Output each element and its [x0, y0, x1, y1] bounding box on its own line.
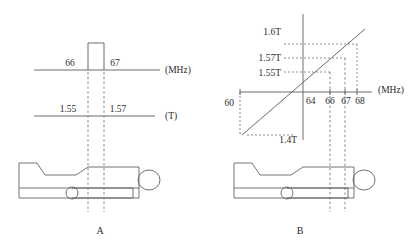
figure-svg: 66 67 (MHz) 1.55 1.57 (T) A — [0, 0, 419, 247]
panel-b-ytick-1p4T: 1.4T — [279, 135, 297, 145]
panel-b-patient-hand-circle — [281, 187, 293, 199]
panel-a-letter: A — [96, 225, 104, 236]
panel-a-freq-tick-66: 66 — [65, 58, 75, 68]
panel-b-letter: B — [297, 225, 304, 236]
panel-a-frequency-unit-label: (MHz) — [165, 65, 191, 76]
panel-b-patient-body — [234, 163, 354, 198]
panel-a-field-tick-155: 1.55 — [60, 104, 77, 114]
panel-b-patient-outline — [234, 163, 375, 199]
panel-b-xtick-label-67: 67 — [341, 96, 351, 106]
panel-a-patient-outline — [19, 163, 160, 199]
panel-a-patient-arm — [72, 188, 133, 198]
panel-b-xtick-label-68: 68 — [355, 96, 365, 106]
panel-b-gradient-line — [242, 29, 365, 135]
panel-b-ytick-1p57T: 1.57T — [259, 53, 282, 63]
panel-a-patient-hand-circle — [66, 187, 78, 199]
panel-a-freq-tick-67: 67 — [110, 58, 120, 68]
panel-b: 1.6T 1.57T 1.55T 1.4T 60 64 66 67 68 (MH… — [225, 14, 404, 236]
panel-b-frequency-unit-label: (MHz) — [378, 85, 404, 96]
panel-b-xtick-label-64: 64 — [306, 96, 316, 106]
panel-a: 66 67 (MHz) 1.55 1.57 (T) A — [19, 43, 191, 236]
panel-a-field-tick-157: 1.57 — [110, 104, 127, 114]
panel-b-ytick-1p6T: 1.6T — [263, 27, 281, 37]
rf-pulse-block — [88, 43, 104, 70]
panel-b-ytick-1p55T: 1.55T — [259, 68, 282, 78]
panel-a-patient-body — [19, 163, 139, 198]
panel-b-patient-head-circle — [353, 170, 375, 190]
panel-a-field-unit-label: (T) — [165, 111, 177, 122]
panel-b-xtick-label-60: 60 — [225, 98, 235, 108]
panel-b-xtick-label-66: 66 — [325, 96, 335, 106]
figure-root: 66 67 (MHz) 1.55 1.57 (T) A — [0, 0, 419, 247]
panel-a-patient-head-circle — [138, 170, 160, 190]
panel-b-patient-arm — [287, 188, 348, 198]
